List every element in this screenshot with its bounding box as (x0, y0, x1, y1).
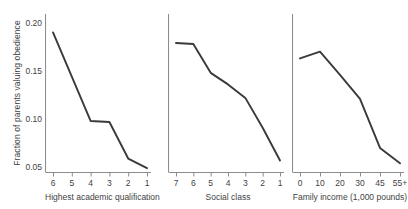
panel-family-income: 01020304555+ Family income (1,000 pounds… (292, 0, 408, 209)
x-tick-label-4: 4 (226, 178, 231, 188)
x-tick-label-1: 1 (278, 178, 283, 188)
y-tick-label-0.05: 0.05 (25, 162, 42, 172)
x-tick-label-1: 1 (145, 178, 150, 188)
x-tick-label-30: 30 (355, 178, 364, 188)
y-tick-label-0.10: 0.10 (25, 114, 42, 124)
x-tick-label-2: 2 (260, 178, 265, 188)
chart-figure: Fraction of parents valuing obedience 0.… (0, 0, 408, 209)
data-line (300, 52, 400, 164)
x-tick-label-2: 2 (126, 178, 131, 188)
x-axis-tick-labels: 7654321 (168, 178, 288, 190)
y-axis-tick-labels: 0.050.100.150.20 (12, 0, 42, 209)
x-tick-label-4: 4 (88, 178, 93, 188)
data-line (176, 43, 280, 160)
x-axis-tick-labels: 654321 (45, 178, 155, 190)
panel-social-class: 7654321 Social class (168, 0, 288, 209)
panel-highest-academic-qualification: 654321 Highest academic qualification (45, 0, 155, 209)
x-tick-label-55+: 55+ (393, 178, 407, 188)
x-axis-tick-labels: 01020304555+ (292, 178, 408, 190)
x-tick-label-6: 6 (191, 178, 196, 188)
x-tick-label-7: 7 (174, 178, 179, 188)
data-line (53, 32, 147, 168)
x-tick-label-45: 45 (375, 178, 384, 188)
x-tick-label-3: 3 (107, 178, 112, 188)
x-tick-label-3: 3 (243, 178, 248, 188)
x-tick-label-0: 0 (298, 178, 303, 188)
x-axis-title: Family income (1,000 pounds) (292, 192, 408, 202)
y-tick-label-0.15: 0.15 (25, 66, 42, 76)
x-axis-title: Highest academic qualification (45, 192, 155, 202)
x-tick-label-5: 5 (69, 178, 74, 188)
x-tick-label-10: 10 (315, 178, 324, 188)
x-tick-label-20: 20 (335, 178, 344, 188)
x-tick-label-5: 5 (208, 178, 213, 188)
x-axis-title: Social class (168, 192, 288, 202)
x-tick-label-6: 6 (51, 178, 56, 188)
y-tick-label-0.20: 0.20 (25, 18, 42, 28)
